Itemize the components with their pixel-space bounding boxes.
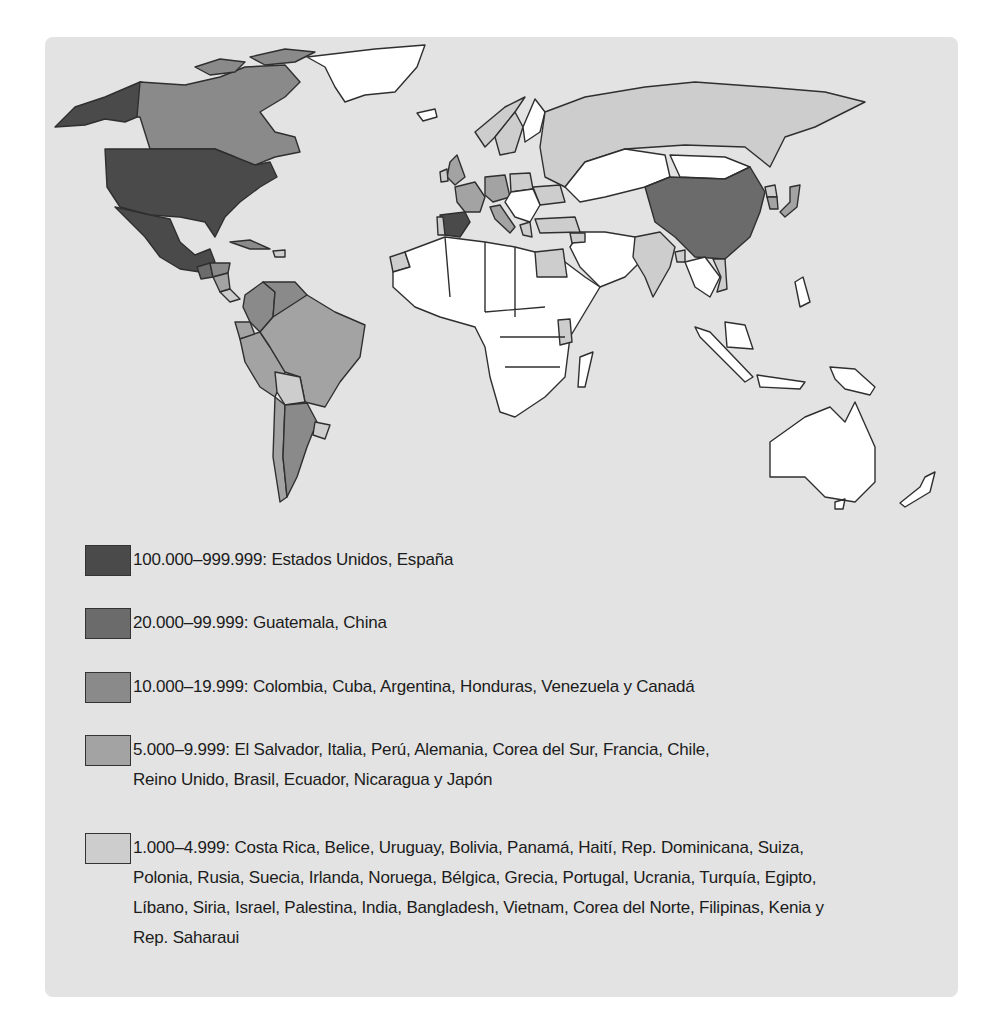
legend-label-cont: Rep. Saharaui bbox=[133, 923, 824, 953]
country-greenland[interactable] bbox=[307, 45, 425, 102]
legend-swatch bbox=[85, 735, 131, 766]
legend-label: 10.000–19.999: Colombia, Cuba, Argentina… bbox=[133, 672, 695, 702]
country-philippines[interactable] bbox=[795, 277, 810, 307]
legend-label: 20.000–99.999: Guatemala, China bbox=[133, 608, 387, 638]
legend-item-tier-5: 1.000–4.999: Costa Rica, Belice, Uruguay… bbox=[85, 833, 824, 953]
country-north-korea[interactable] bbox=[765, 185, 777, 197]
country-egypt[interactable] bbox=[535, 249, 567, 277]
legend-swatch bbox=[85, 608, 131, 639]
country-germany[interactable] bbox=[485, 175, 510, 202]
country-uruguay[interactable] bbox=[313, 422, 330, 439]
country-costa-rica[interactable] bbox=[220, 289, 240, 302]
country-kenia[interactable] bbox=[558, 319, 572, 345]
country-japan[interactable] bbox=[780, 185, 800, 217]
legend-swatch bbox=[85, 833, 131, 864]
country-france[interactable] bbox=[455, 182, 485, 212]
country-greece[interactable] bbox=[520, 222, 532, 237]
country-turkey[interactable] bbox=[535, 217, 580, 233]
country-australia[interactable] bbox=[770, 402, 875, 502]
map-panel: 100.000–999.999: Estados Unidos, España … bbox=[45, 37, 958, 997]
country-india[interactable] bbox=[633, 232, 675, 297]
legend-label: 100.000–999.999: Estados Unidos, España bbox=[133, 545, 453, 575]
legend-item-tier-3: 10.000–19.999: Colombia, Cuba, Argentina… bbox=[85, 672, 695, 703]
legend-swatch bbox=[85, 672, 131, 703]
legend-label-cont: Líbano, Siria, Israel, Palestina, India,… bbox=[133, 893, 824, 923]
country-argentina[interactable] bbox=[283, 403, 317, 497]
legend-label-cont: Reino Unido, Brasil, Ecuador, Nicaragua … bbox=[133, 765, 710, 795]
legend-label: 1.000–4.999: Costa Rica, Belice, Uruguay… bbox=[133, 833, 824, 863]
country-portugal[interactable] bbox=[437, 217, 445, 235]
legend-item-tier-4: 5.000–9.999: El Salvador, Italia, Perú, … bbox=[85, 735, 710, 795]
country-ireland[interactable] bbox=[440, 169, 448, 182]
country-syria[interactable] bbox=[570, 233, 585, 243]
legend-label-cont: Polonia, Rusia, Suecia, Irlanda, Noruega… bbox=[133, 863, 824, 893]
country-haiti[interactable] bbox=[273, 250, 285, 257]
country-cuba[interactable] bbox=[230, 240, 270, 249]
legend-item-tier-2: 20.000–99.999: Guatemala, China bbox=[85, 608, 387, 639]
legend-item-tier-1: 100.000–999.999: Estados Unidos, España bbox=[85, 545, 453, 576]
legend-swatch bbox=[85, 545, 131, 576]
country-south-korea[interactable] bbox=[767, 197, 778, 209]
country-uk[interactable] bbox=[447, 155, 465, 185]
legend-label: 5.000–9.999: El Salvador, Italia, Perú, … bbox=[133, 735, 710, 765]
country-bangladesh[interactable] bbox=[675, 250, 685, 262]
world-map bbox=[45, 37, 958, 517]
